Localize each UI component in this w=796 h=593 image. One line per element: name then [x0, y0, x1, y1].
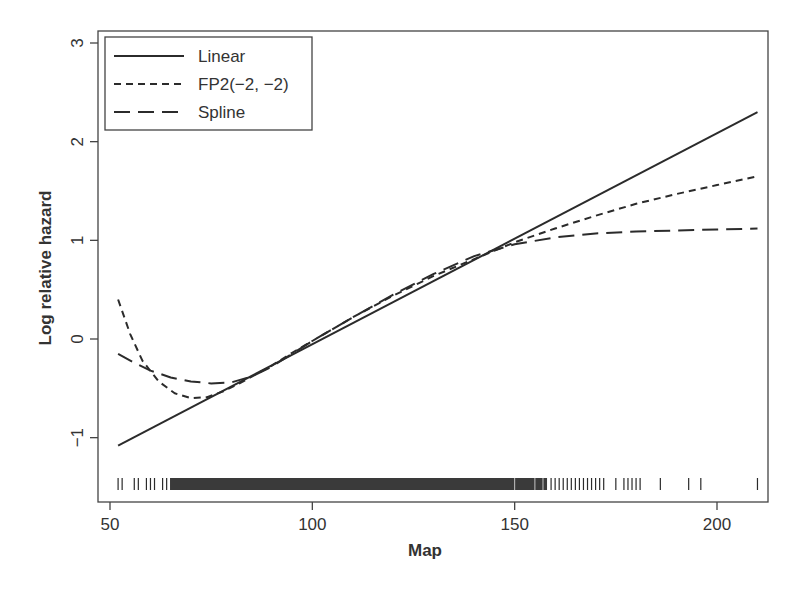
y-tick-label: 2: [68, 137, 87, 146]
series-lines: [118, 112, 757, 446]
x-tick-label: 200: [703, 515, 731, 534]
series-fp2-2-2: [118, 176, 757, 398]
x-tick-label: 100: [298, 515, 326, 534]
y-axis-title: Log relative hazard: [36, 191, 55, 346]
y-tick-label: 3: [68, 38, 87, 47]
x-tick-label: 50: [101, 515, 120, 534]
legend-label: FP2(−2, −2): [198, 75, 289, 94]
y-tick-label: 1: [68, 236, 87, 245]
series-spline: [118, 229, 757, 384]
y-tick-label: 0: [68, 334, 87, 343]
y-tick-label: −1: [68, 428, 87, 447]
x-axis-title: Map: [408, 541, 442, 560]
x-tick-label: 150: [500, 515, 528, 534]
rug-plot: [118, 478, 757, 490]
rug-dense-band: [171, 478, 547, 490]
chart: 50100150200−10123 LinearFP2(−2, −2)Splin…: [0, 0, 796, 593]
legend: LinearFP2(−2, −2)Spline: [105, 37, 312, 130]
series-linear: [118, 112, 757, 446]
legend-label: Linear: [198, 47, 246, 66]
legend-label: Spline: [198, 103, 245, 122]
